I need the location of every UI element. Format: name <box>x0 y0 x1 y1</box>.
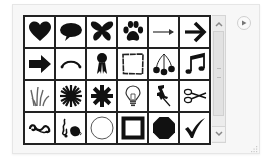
gallery-item-square-frame[interactable] <box>118 113 149 145</box>
rough-frame-icon <box>121 52 145 76</box>
gallery-item-scissors[interactable] <box>180 81 211 113</box>
gallery-item-swirl-ornament[interactable] <box>25 113 56 145</box>
gallery-item-speech-bubble[interactable] <box>56 17 87 49</box>
gallery-item-floral-ornament[interactable] <box>56 113 87 145</box>
gallery-item-paw-print[interactable] <box>118 17 149 49</box>
light-bulb-icon <box>121 84 145 108</box>
swirl-ornament-icon <box>28 116 52 140</box>
gallery-item-checkmark[interactable] <box>180 113 211 145</box>
award-ribbon-icon <box>90 52 114 76</box>
gallery-item-grass[interactable] <box>25 81 56 113</box>
arc-connector-icon <box>59 52 83 76</box>
speech-bubble-icon <box>59 20 83 44</box>
gallery-item-light-bulb[interactable] <box>118 81 149 113</box>
flyout-menu-button[interactable] <box>237 16 251 30</box>
checkmark-icon <box>183 116 207 140</box>
gallery-item-music-notes[interactable] <box>180 49 211 81</box>
gallery-item-arc-connector[interactable] <box>56 49 87 81</box>
gallery-item-push-pin[interactable] <box>149 81 180 113</box>
gallery-item-heart[interactable] <box>25 17 56 49</box>
paw-print-icon <box>121 20 145 44</box>
butterfly-icon <box>90 20 114 44</box>
floral-ornament-icon <box>59 116 83 140</box>
gallery-item-snowflake[interactable] <box>87 81 118 113</box>
grip-icon <box>217 68 221 78</box>
starburst-icon <box>59 84 83 108</box>
gallery-item-butterfly[interactable] <box>87 17 118 49</box>
play-triangle-icon <box>241 20 247 26</box>
chevron-up-icon <box>215 21 223 27</box>
gallery-scrollbar[interactable] <box>212 15 226 143</box>
block-arrow-right-icon <box>28 52 52 76</box>
octagon-icon <box>152 116 176 140</box>
gallery-item-starburst[interactable] <box>56 81 87 113</box>
scrollbar-thumb[interactable] <box>213 31 224 116</box>
chevron-down-icon <box>215 131 223 137</box>
gallery-item-thin-arrow-right[interactable] <box>149 17 180 49</box>
bold-arrow-right-icon <box>183 20 207 44</box>
gallery-item-award-ribbon[interactable] <box>87 49 118 81</box>
heart-icon <box>28 20 52 44</box>
resize-grip-icon[interactable] <box>249 146 258 153</box>
gallery-item-rough-frame[interactable] <box>118 49 149 81</box>
symbol-grid <box>23 15 211 145</box>
scissors-icon <box>183 84 207 108</box>
gallery-item-block-arrow-right[interactable] <box>25 49 56 81</box>
scroll-up-button[interactable] <box>212 17 225 31</box>
scroll-down-button[interactable] <box>212 126 225 141</box>
square-frame-icon <box>121 116 145 140</box>
snowflake-icon <box>90 84 114 108</box>
thin-arrow-right-icon <box>152 20 176 44</box>
gallery-item-bold-arrow-right[interactable] <box>180 17 211 49</box>
cherries-icon <box>152 52 176 76</box>
push-pin-icon <box>152 84 176 108</box>
grass-icon <box>28 84 52 108</box>
gallery-item-circle-outline[interactable] <box>87 113 118 145</box>
gallery-item-octagon[interactable] <box>149 113 180 145</box>
music-notes-icon <box>183 52 207 76</box>
gallery-item-cherries[interactable] <box>149 49 180 81</box>
circle-outline-icon <box>90 116 114 140</box>
